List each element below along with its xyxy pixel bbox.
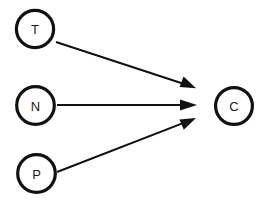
edge-t-c-line — [56, 42, 190, 86]
node-t-label: T — [31, 22, 39, 37]
edge-p-c-line — [57, 121, 190, 172]
node-p[interactable]: P — [18, 155, 56, 193]
node-n[interactable]: N — [17, 87, 55, 125]
node-p-label: P — [32, 167, 41, 182]
node-n-label: N — [31, 99, 40, 114]
graph-svg: T N P C — [0, 0, 268, 211]
node-group: T N P C — [16, 10, 252, 192]
edge-t-c-arrowhead — [180, 76, 196, 88]
edge-p-c[interactable] — [57, 118, 196, 172]
node-c-label: C — [229, 99, 238, 114]
edge-n-c[interactable] — [57, 100, 197, 111]
edge-p-c-arrowhead — [179, 118, 196, 130]
edge-n-c-arrowhead — [180, 100, 197, 111]
diagram-canvas: T N P C — [0, 0, 268, 211]
node-c[interactable]: C — [216, 88, 253, 125]
edge-t-c[interactable] — [56, 42, 196, 88]
edge-group — [56, 42, 197, 172]
node-t[interactable]: T — [16, 10, 53, 47]
